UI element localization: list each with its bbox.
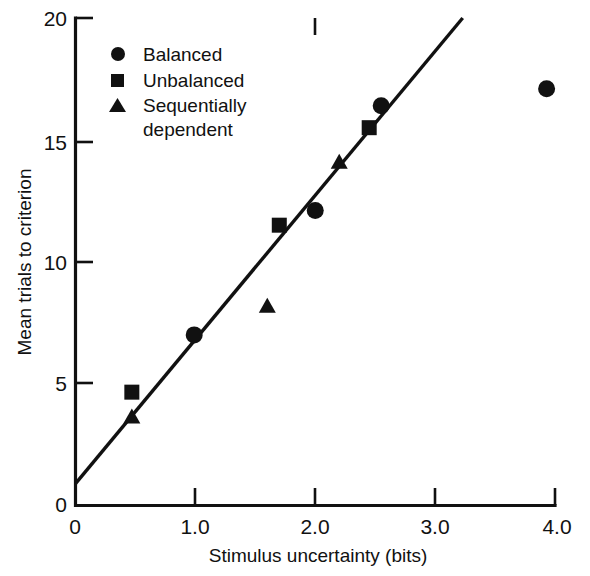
legend-label-unbalanced: Unbalanced xyxy=(143,70,244,91)
x-tick-label-3: 3.0 xyxy=(420,515,449,538)
axis-spines xyxy=(76,18,556,506)
y-tick-label-10: 10 xyxy=(44,251,67,274)
legend-circle-icon xyxy=(111,47,125,61)
y-tick-label-15: 15 xyxy=(44,131,67,154)
y-tick-label-0: 0 xyxy=(55,493,67,516)
x-axis-title: Stimulus uncertainty (bits) xyxy=(209,545,428,566)
legend-label-balanced: Balanced xyxy=(143,44,222,65)
legend-label-sequentially: Sequentially xyxy=(143,95,247,116)
chart-legend: Balanced Unbalanced Sequentially depende… xyxy=(109,44,247,140)
data-point-square xyxy=(362,120,377,135)
legend-label-dependent: dependent xyxy=(143,119,234,140)
y-tick-label-5: 5 xyxy=(55,372,67,395)
data-point-circle xyxy=(373,97,390,114)
series-balanced-markers xyxy=(186,80,555,343)
legend-square-icon xyxy=(111,74,124,87)
legend-triangle-icon xyxy=(109,98,126,112)
data-point-square xyxy=(124,385,139,400)
scatter-plot: 20 15 10 5 0 0 1.0 2.0 3.0 4.0 Stimulus … xyxy=(0,0,590,576)
data-point-triangle xyxy=(259,298,276,313)
x-tick-label-2: 2.0 xyxy=(300,515,329,538)
y-tick-labels: 20 15 10 5 0 xyxy=(44,7,67,516)
chart-figure: 20 15 10 5 0 0 1.0 2.0 3.0 4.0 Stimulus … xyxy=(0,0,590,576)
x-tick-marks xyxy=(195,18,555,505)
x-tick-labels: 0 1.0 2.0 3.0 4.0 xyxy=(69,515,571,538)
y-tick-label-20: 20 xyxy=(44,7,67,30)
data-point-circle xyxy=(538,80,555,97)
x-tick-label-4: 4.0 xyxy=(542,515,571,538)
x-tick-label-0: 0 xyxy=(69,515,81,538)
x-tick-label-1: 1.0 xyxy=(180,515,209,538)
data-point-circle xyxy=(307,202,324,219)
y-tick-marks xyxy=(76,18,93,383)
data-point-circle xyxy=(186,326,203,343)
y-axis-title: Mean trials to criterion xyxy=(14,169,35,356)
data-point-square xyxy=(272,218,287,233)
